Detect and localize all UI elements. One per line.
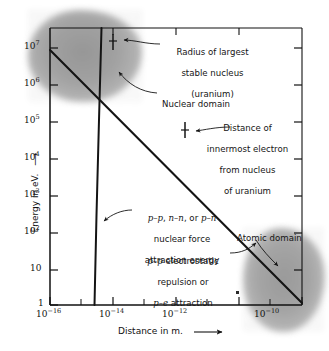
nuclear-force-leader [104,210,132,221]
nuclear-force-pn: p–n [201,213,216,223]
nuclear-force-line1: p–p, n–n, or p–n [132,213,232,224]
innermost-electron-line1: Distance of [196,123,299,134]
top-axis-ticks [113,28,239,35]
electrostatic-pe: p–e [153,298,168,308]
nuclear-force-line2: nuclear force [132,234,232,245]
electrostatic-line3-rest: attraction [168,298,213,308]
x-tick-label-1e-10: 10−10 [254,309,279,319]
y-tick-label-1: 1 [38,298,44,308]
y-axis-title-wrap: Energy in eV. ⟶ [23,137,42,249]
stray-mark [236,291,239,294]
x-axis-title: Distance in m. [118,326,183,336]
y-axis-title-arrow: ⟶ [30,153,40,166]
y-tick-label-1e6: 106 [24,78,40,88]
nuclear-force-line [95,28,102,305]
innermost-electron-line2: innermost electron [196,144,299,155]
x-tick-label-1e-14: 10−14 [99,309,124,319]
y-axis-ticks [50,48,58,305]
radius-nucleus-line1: Radius of largest [160,47,265,58]
electrostatic-line1: p–p electrostatic [136,256,230,267]
electrostatic-pp: p–p [147,256,162,266]
innermost-electron-line4: of uranium [196,186,299,197]
electrostatic-line1-rest: electrostatic [163,256,219,266]
radius-nucleus-line2: stable nucleus [160,68,265,79]
y-tick-label-10: 10 [30,263,41,273]
nuclear-domain-label: Nuclear domain [162,99,252,110]
nuclear-force-nn: n–n [169,213,184,223]
radius-nucleus-marker [109,34,117,50]
y-tick-label-1e7: 107 [24,41,40,51]
annotation-distance-innermost-electron: Distance of innermost electron from nucl… [196,112,299,207]
nuclear-force-sep2: , or [184,213,201,223]
electrostatic-line2: repulsion or [136,277,230,288]
nuclear-domain-leader [119,72,157,93]
innermost-electron-marker [181,122,189,138]
y-axis-title: Energy in eV. [30,174,40,233]
y-tick-label-1e5: 105 [24,115,40,125]
radius-nucleus-leader [124,40,160,44]
annotation-atomic-domain: Atomic domain [237,222,317,254]
x-tick-label-1e-16: 10−16 [36,309,61,319]
energy-vs-distance-figure: 107 106 105 104 103 102 10 1 10−16 10−14… [0,0,329,351]
innermost-electron-line3: from nucleus [196,165,299,176]
electrostatic-line3: p–e attraction [136,298,230,309]
nuclear-force-pp: p–p [148,213,163,223]
atomic-domain-label: Atomic domain [237,233,317,244]
annotation-electrostatic-repulsion: p–p electrostatic repulsion or p–e attra… [136,245,230,319]
